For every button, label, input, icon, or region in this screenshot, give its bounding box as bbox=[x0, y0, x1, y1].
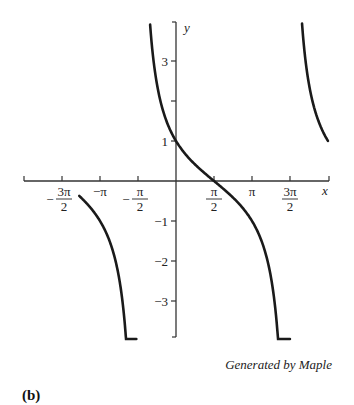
curve-branch-1 bbox=[79, 196, 136, 339]
y-tick-label: −1 bbox=[154, 214, 168, 229]
panel-label: (b) bbox=[22, 387, 40, 404]
y-tick-label: −2 bbox=[154, 254, 168, 269]
x-tick-denominator: 2 bbox=[137, 199, 144, 214]
x-tick-numerator: 3π bbox=[57, 184, 71, 199]
credit-text: Generated by Maple bbox=[225, 357, 332, 373]
plot-area: −3π2−π−π2π2π3π2 31−1−2−3 x y bbox=[0, 0, 354, 405]
y-tick-label: 3 bbox=[162, 54, 169, 69]
x-tick-numerator: π bbox=[137, 184, 144, 199]
curve-branch-3 bbox=[302, 24, 328, 141]
x-tick-sign: − bbox=[122, 192, 129, 207]
y-tick-label: −3 bbox=[154, 294, 168, 309]
y-tick-label: 1 bbox=[162, 134, 169, 149]
curve-branch-2 bbox=[150, 25, 290, 339]
x-tick-denominator: 2 bbox=[61, 199, 68, 214]
x-tick-label: π bbox=[249, 184, 256, 199]
y-ticks: 31−1−2−3 bbox=[154, 22, 176, 337]
y-axis-label: y bbox=[182, 20, 190, 35]
x-tick-label: −π bbox=[93, 184, 107, 199]
x-tick-numerator: 3π bbox=[283, 184, 297, 199]
x-tick-numerator: π bbox=[211, 184, 218, 199]
axes bbox=[24, 22, 329, 337]
x-axis-label: x bbox=[321, 183, 328, 198]
x-tick-sign: − bbox=[46, 192, 53, 207]
x-tick-denominator: 2 bbox=[287, 199, 294, 214]
x-tick-denominator: 2 bbox=[211, 199, 218, 214]
